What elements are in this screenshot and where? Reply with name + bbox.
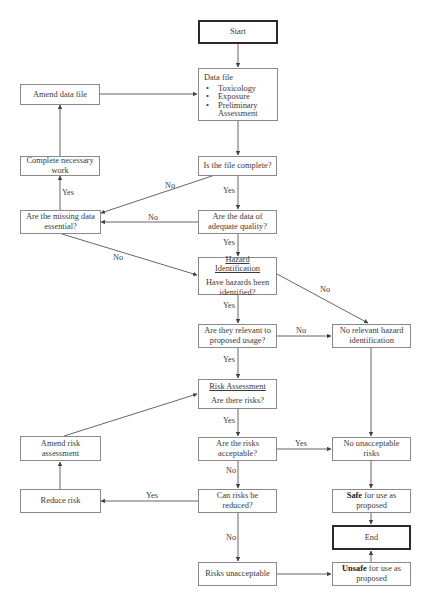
unsafe-label: Unsafe for use as proposed: [336, 564, 407, 583]
arrow-hazard-no: [277, 274, 368, 323]
can-reduce-label: Can risks be reduced?: [202, 491, 273, 510]
unsafe-bold: Unsafe: [342, 564, 367, 573]
file-complete-node: Is the file complete?: [198, 156, 277, 176]
amend-risk-label: Amend risk assessment: [24, 439, 97, 458]
adequate-quality-node: Are the data of adequate quality?: [198, 210, 277, 234]
safe-label: Safe for use as proposed: [336, 491, 407, 510]
safe-rest: for use as proposed: [356, 491, 396, 510]
edge-label-acceptable-yes: Yes: [295, 439, 307, 448]
data-file-node: Data file Toxicology Exposure Preliminar…: [198, 68, 278, 121]
amend-data-file-node: Amend data file: [20, 84, 100, 105]
risks-unacceptable-label: Risks unacceptable: [205, 569, 269, 579]
risks-acceptable-node: Are the risks acceptable?: [198, 437, 277, 461]
edge-label-file-complete-no: No: [165, 181, 175, 190]
edge-label-file-complete-yes: Yes: [223, 186, 235, 195]
adequate-quality-label: Are the data of adequate quality?: [202, 212, 273, 231]
end-label: End: [365, 533, 379, 543]
no-unacceptable-node: No unacceptable risks: [332, 437, 411, 461]
edge-label-hazard-no: No: [320, 285, 330, 294]
risk-assessment-label: Are there risks?: [211, 396, 264, 406]
arrow-complete-no: [101, 175, 215, 213]
edge-label-hazard-yes: Yes: [223, 301, 235, 310]
no-relevant-hazard-node: No relevant hazard identification: [332, 324, 411, 348]
hazard-identification-node: Hazard Identification Have hazards been …: [198, 257, 277, 295]
reduce-risk-node: Reduce risk: [20, 489, 101, 513]
edge-label-relevant-yes: Yes: [223, 355, 235, 364]
amend-risk-node: Amend risk assessment: [20, 436, 101, 461]
start-label: Start: [230, 27, 246, 37]
data-file-item: Preliminary Assessment: [204, 102, 272, 119]
hazard-identification-heading: Hazard Identification: [202, 255, 273, 274]
arrow-amendrisk-to-riskassessment: [64, 394, 197, 436]
data-file-title: Data file: [204, 73, 233, 83]
safe-node: Safe for use as proposed: [332, 489, 411, 513]
relevant-usage-label: Are they relevant to proposed usage?: [202, 326, 273, 345]
edge-label-missing-no: No: [113, 253, 123, 262]
edge-label-missing-yes: Yes: [62, 188, 74, 197]
edge-label-relevant-no: No: [296, 326, 306, 335]
missing-essential-node: Are the missing data essential?: [20, 210, 101, 234]
arrow-missing-no: [62, 234, 197, 275]
no-unacceptable-label: No unacceptable risks: [336, 439, 407, 458]
file-complete-label: Is the file complete?: [203, 161, 271, 171]
complete-work-label: Complete necessary work: [24, 156, 96, 175]
reduce-risk-label: Reduce risk: [41, 496, 81, 506]
risks-unacceptable-node: Risks unacceptable: [198, 562, 277, 586]
can-reduce-node: Can risks be reduced?: [198, 489, 277, 513]
edge-label-quality-yes: Yes: [223, 238, 235, 247]
edge-label-quality-no: No: [148, 213, 158, 222]
missing-essential-label: Are the missing data essential?: [24, 212, 97, 231]
edge-label-risks-yes: Yes: [223, 416, 235, 425]
risk-assessment-node: Risk Assessment Are there risks?: [198, 379, 277, 409]
relevant-usage-node: Are they relevant to proposed usage?: [198, 324, 277, 348]
no-relevant-hazard-label: No relevant hazard identification: [336, 326, 407, 345]
data-file-list: Toxicology Exposure Preliminary Assessme…: [204, 85, 272, 119]
edge-label-reduce-no: No: [226, 533, 236, 542]
end-node: End: [332, 525, 411, 550]
safe-bold: Safe: [347, 491, 362, 500]
complete-work-node: Complete necessary work: [20, 156, 100, 176]
risks-acceptable-label: Are the risks acceptable?: [202, 439, 273, 458]
edge-label-acceptable-no: No: [226, 466, 236, 475]
start-node: Start: [198, 20, 278, 44]
risk-assessment-heading: Risk Assessment: [209, 382, 266, 392]
hazard-identification-label: Have hazards been identified?: [202, 278, 273, 297]
edge-label-reduce-yes: Yes: [146, 491, 158, 500]
unsafe-node: Unsafe for use as proposed: [332, 562, 411, 586]
amend-data-file-label: Amend data file: [33, 90, 87, 100]
